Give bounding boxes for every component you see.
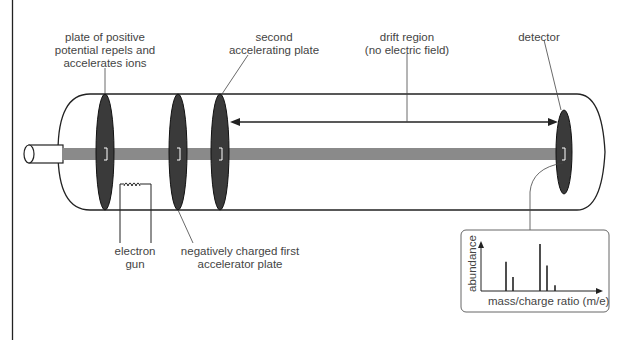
first-accelerator-plate: [169, 94, 187, 210]
label-electron-gun: electron gun: [110, 245, 160, 271]
ion-beam: [62, 148, 562, 160]
second-accelerator-plate: [211, 94, 229, 210]
detector-plate: [556, 110, 572, 194]
label-first-plate: negatively charged first accelerator pla…: [175, 245, 305, 271]
label-positive-plate: plate of positive potential repels and a…: [52, 31, 158, 70]
inset-x-axis-label: mass/charge ratio (m/e): [488, 295, 609, 307]
label-detector: detector: [509, 31, 569, 44]
positive-repeller-plate: [96, 94, 114, 210]
sample-inlet: [24, 145, 63, 163]
inset-y-axis-label: abundance: [466, 235, 478, 292]
label-second-plate: second accelerating plate: [224, 31, 324, 57]
label-drift-region: drift region (no electric field): [357, 31, 457, 57]
